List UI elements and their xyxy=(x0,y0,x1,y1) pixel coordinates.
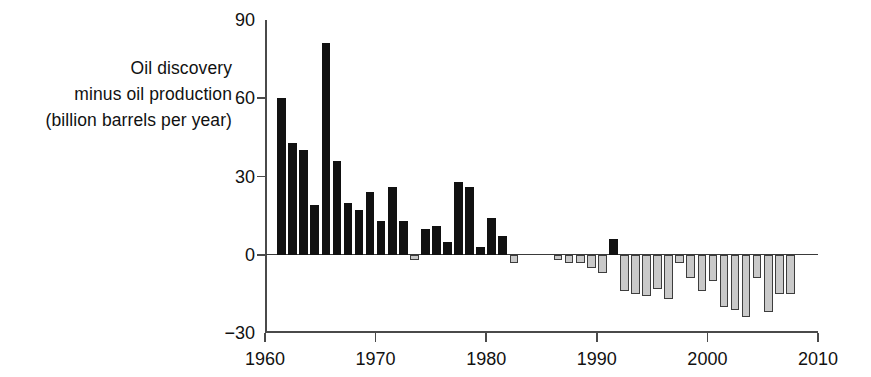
bar-1968 xyxy=(355,210,364,254)
bar-2006 xyxy=(775,255,784,294)
bar-2001 xyxy=(720,255,729,307)
x-tick-mark-2010 xyxy=(817,333,819,342)
x-tick-mark-1960 xyxy=(264,333,266,342)
x-tick-label-1970: 1970 xyxy=(356,349,396,370)
bar-1993 xyxy=(631,255,640,294)
bar-1970 xyxy=(377,221,386,255)
x-tick-mark-2000 xyxy=(707,333,709,342)
bar-1994 xyxy=(642,255,651,297)
bar-1998 xyxy=(686,255,695,278)
x-tick-mark-1970 xyxy=(375,333,377,342)
x-axis-spine xyxy=(265,331,818,333)
y-tick-label: 0 xyxy=(245,244,255,265)
bar-1964 xyxy=(310,205,319,255)
bar-2003 xyxy=(742,255,751,318)
bar-1973 xyxy=(410,255,419,260)
bar-1990 xyxy=(598,255,607,273)
chart-figure: Oil discovery minus oil production (bill… xyxy=(0,0,871,377)
bar-1989 xyxy=(587,255,596,268)
bar-1995 xyxy=(653,255,662,289)
bar-2005 xyxy=(764,255,773,312)
bar-2007 xyxy=(786,255,795,294)
bar-1961 xyxy=(277,98,286,255)
bar-1963 xyxy=(299,150,308,254)
bar-1991 xyxy=(609,239,618,255)
plot-area: 9060300−30 196019701980199020002010 xyxy=(265,20,818,333)
bar-1996 xyxy=(664,255,673,299)
bar-1981 xyxy=(498,236,507,254)
bar-2002 xyxy=(731,255,740,310)
bar-1988 xyxy=(576,255,585,263)
bar-1977 xyxy=(454,182,463,255)
y-axis-label: Oil discovery minus oil production (bill… xyxy=(0,55,232,133)
bar-2004 xyxy=(753,255,762,278)
bar-1974 xyxy=(421,229,430,255)
y-axis-label-line-2: minus oil production xyxy=(0,81,232,107)
bar-1986 xyxy=(554,255,563,260)
x-tick-label-1960: 1960 xyxy=(245,349,285,370)
x-tick-label-1990: 1990 xyxy=(577,349,617,370)
y-tick-label: 30 xyxy=(235,166,255,187)
y-tick-label: 90 xyxy=(235,10,255,31)
bar-1966 xyxy=(333,161,342,255)
bar-1965 xyxy=(322,43,331,254)
bar-1992 xyxy=(620,255,629,292)
y-tick-mark xyxy=(257,254,266,256)
y-tick-mark xyxy=(257,97,266,99)
bar-1976 xyxy=(443,242,452,255)
bar-1971 xyxy=(388,187,397,255)
y-tick-mark xyxy=(257,176,266,178)
bar-1969 xyxy=(366,192,375,255)
bar-1978 xyxy=(465,187,474,255)
bar-1975 xyxy=(432,226,441,255)
bar-1980 xyxy=(487,218,496,255)
bar-1982 xyxy=(510,255,519,263)
x-tick-mark-1980 xyxy=(485,333,487,342)
bar-1972 xyxy=(399,221,408,255)
bar-1999 xyxy=(698,255,707,292)
y-axis-label-line-1: Oil discovery xyxy=(0,55,232,81)
bar-1967 xyxy=(344,203,353,255)
y-tick-label: −30 xyxy=(224,323,255,344)
x-tick-label-2000: 2000 xyxy=(687,349,727,370)
bar-2000 xyxy=(709,255,718,281)
y-tick-label: 60 xyxy=(235,88,255,109)
bar-1979 xyxy=(476,247,485,255)
x-tick-mark-1990 xyxy=(596,333,598,342)
x-tick-label-1980: 1980 xyxy=(466,349,506,370)
x-tick-label-2010: 2010 xyxy=(798,349,838,370)
bar-1962 xyxy=(288,143,297,255)
bar-1987 xyxy=(565,255,574,263)
y-axis-label-line-3: (billion barrels per year) xyxy=(0,107,232,133)
bar-1997 xyxy=(675,255,684,263)
